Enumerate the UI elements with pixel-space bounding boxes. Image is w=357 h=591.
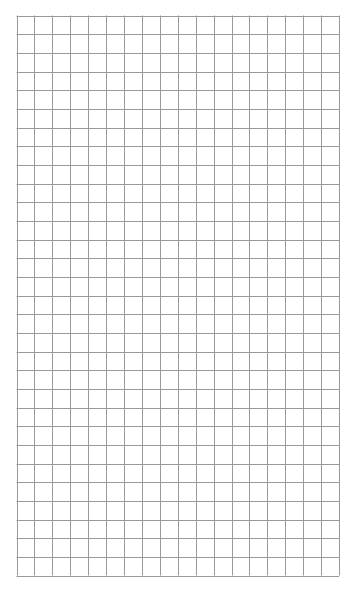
- grid: [0, 0, 357, 591]
- grid-lines: [0, 0, 357, 591]
- graph-paper-page: [0, 0, 357, 591]
